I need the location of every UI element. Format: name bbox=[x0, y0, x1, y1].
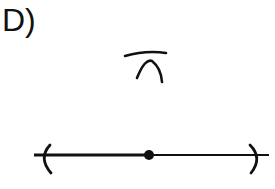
point-marker bbox=[144, 150, 154, 160]
upper-arc-right bbox=[137, 61, 162, 82]
construction-diagram bbox=[0, 0, 275, 189]
left-cut-arc bbox=[44, 145, 51, 173]
upper-arc-left bbox=[125, 52, 166, 56]
right-cut-arc bbox=[250, 145, 257, 173]
